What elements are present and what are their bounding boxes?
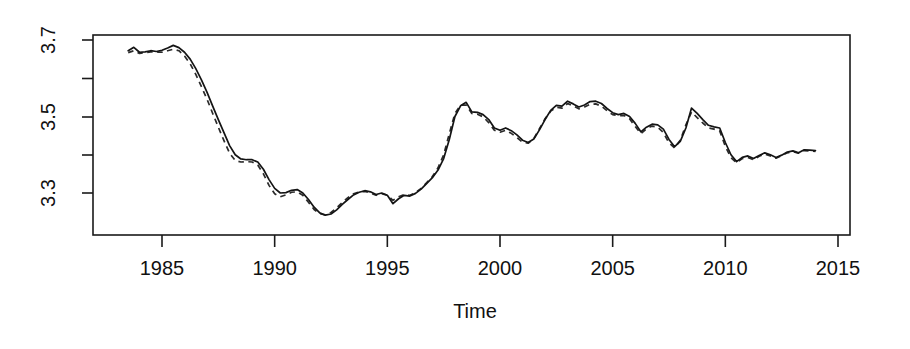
time-series-chart: 3.7 3.5 3.3 1985199019952000200520102015…: [0, 0, 910, 349]
y-axis-tick-labels: 3.7 3.5 3.3: [37, 26, 59, 207]
x-tick-label-2000: 2000: [478, 257, 523, 279]
y-tick-label-3-3: 3.3: [37, 179, 59, 207]
x-tick-label-1985: 1985: [140, 257, 185, 279]
x-tick-label-2015: 2015: [816, 257, 861, 279]
x-tick-label-1995: 1995: [365, 257, 410, 279]
x-axis-title: Time: [453, 300, 497, 322]
x-tick-label-2005: 2005: [590, 257, 635, 279]
chart-background: [0, 0, 910, 349]
y-tick-label-3-7: 3.7: [37, 26, 59, 54]
x-tick-label-1990: 1990: [252, 257, 297, 279]
y-tick-label-3-5: 3.5: [37, 103, 59, 131]
x-tick-label-2010: 2010: [703, 257, 748, 279]
chart-plot-area: 3.7 3.5 3.3 1985199019952000200520102015…: [0, 0, 910, 349]
